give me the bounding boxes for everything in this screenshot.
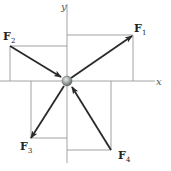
f1-arrow — [71, 36, 132, 78]
svg-text:F: F — [3, 30, 11, 43]
f2-label: F 2 — [3, 30, 15, 45]
particle — [62, 76, 72, 86]
y-axis-label: y — [60, 1, 67, 12]
f4-arrow — [72, 87, 111, 150]
f1-label: F 1 — [134, 22, 146, 37]
svg-text:3: 3 — [28, 147, 32, 155]
force-diagram: x y F 1 F 2 F 3 F 4 — [0, 0, 171, 171]
svg-text:4: 4 — [126, 156, 131, 164]
f3-arrow — [31, 86, 64, 138]
force-arrows — [10, 36, 132, 150]
projection-lines — [10, 35, 133, 150]
svg-text:F: F — [118, 149, 126, 162]
svg-text:2: 2 — [11, 37, 15, 45]
f4-label: F 4 — [118, 149, 131, 164]
f3-label: F 3 — [20, 140, 32, 155]
svg-text:F: F — [20, 140, 28, 153]
svg-text:1: 1 — [142, 29, 146, 37]
x-axis-label: x — [156, 76, 162, 87]
f2-arrow — [10, 46, 61, 77]
svg-text:F: F — [134, 22, 142, 35]
